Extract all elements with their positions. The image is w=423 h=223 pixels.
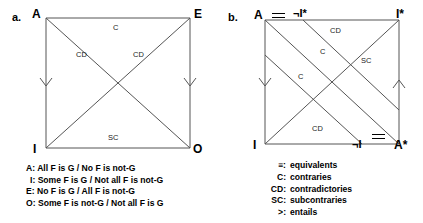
legend-value-contraries: contraries [290,172,332,184]
panel-b-corner-I-star: I* [396,8,404,20]
panel-b-relation-right-sc: SC [361,57,371,65]
panel-b-corner-A-star: A* [394,139,407,151]
legend-key-subcontraries: SC: [258,195,290,207]
panel-b-corner-not-I-star: ¬I* [293,8,307,19]
legend-key-contraries: C: [258,172,290,184]
panel-tag-b: b. [228,11,238,23]
panel-b-corner-A: A [254,9,263,21]
legend-value-equivalents: equivalents [290,160,337,172]
panel-b-equivalence-bottom [372,134,385,142]
legend-key-equivalents: ≡: [258,160,290,172]
legend-row: C: contraries [258,172,352,184]
legend-key-entails: >: [258,207,290,219]
panel-b-corner-I: I [253,139,256,151]
panel-b-relation-bottom-cd: CD [312,125,323,133]
relations-legend: ≡: equivalents C: contraries CD: contrad… [258,160,352,219]
legend-row: ≡: equivalents [258,160,352,172]
panel-b-lines [0,0,423,223]
panel-b-relation-upper-c: C [320,48,325,56]
legend-value-contradictories: contradictories [290,184,352,196]
legend-row: CD: contradictories [258,184,352,196]
panel-b-equivalence-top [272,13,285,21]
legend-row: SC: subcontraries [258,195,352,207]
legend-value-subcontraries: subcontraries [290,195,347,207]
panel-b-relation-left-c: C [298,73,303,81]
panel-b-relation-top-cd: CD [330,27,341,35]
figure-square-of-opposition: a. A E I O C SC CD CD A: All F is G / No… [0,0,423,223]
legend-value-entails: entails [290,207,317,219]
legend-key-contradictories: CD: [258,184,290,196]
panel-b-corner-not-I: ¬I [352,139,361,150]
legend-row: >: entails [258,207,352,219]
